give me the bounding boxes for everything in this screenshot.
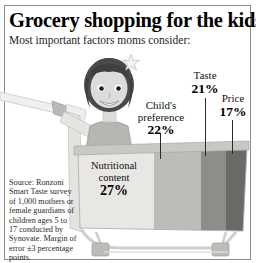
- infographic-grocery-shopping: Grocery shopping for the kids Most impor…: [0, 0, 256, 263]
- callout-value: 27%: [80, 185, 148, 197]
- leader-line-price: [232, 120, 233, 154]
- callout-taste: Taste 21%: [182, 70, 228, 94]
- callout-price: Price 17%: [213, 93, 253, 117]
- cart-wheels-and-legs: [82, 230, 236, 256]
- callout-label-line1: Price: [213, 93, 253, 105]
- cart-wheel-rear: [212, 243, 229, 256]
- callout-label-line1: Taste: [182, 70, 228, 82]
- callout-label-line2: content: [80, 172, 148, 184]
- callout-label-line1: Nutritional: [80, 160, 148, 172]
- callout-value: 17%: [213, 106, 253, 118]
- bar-childs-preference: [154, 144, 201, 236]
- leader-line-taste: [205, 98, 206, 156]
- callout-value: 22%: [130, 124, 192, 136]
- bar-taste: [201, 144, 226, 236]
- cart-wheel-front: [92, 243, 109, 256]
- callout-childs-preference: Child's preference 22%: [130, 100, 192, 136]
- callout-nutritional-content: Nutritional content 27%: [80, 160, 148, 197]
- callout-label-line1: Child's: [130, 100, 192, 112]
- source-note: Source: Ronzoni Smart Taste survey of 1,…: [9, 178, 77, 263]
